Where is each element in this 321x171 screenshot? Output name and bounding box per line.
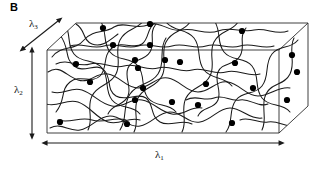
crosslink-node <box>169 99 175 105</box>
lambda1-subscript: 1 <box>160 154 164 162</box>
crosslink-node <box>57 119 63 125</box>
crosslink-node <box>132 97 138 103</box>
polymer-chain <box>58 119 126 121</box>
polymer-chain <box>64 22 140 114</box>
crosslink-node <box>73 61 79 67</box>
polymer-chain <box>262 38 294 130</box>
crosslink-node <box>140 85 146 91</box>
crosslink-node <box>195 102 201 108</box>
crosslink-node <box>135 65 141 71</box>
crosslink-node <box>177 59 183 65</box>
lambda1-label: λ1 <box>155 149 164 160</box>
crosslink-node <box>100 25 106 31</box>
crosslink-node <box>132 57 138 63</box>
crosslink-node <box>239 28 245 34</box>
crosslink-node <box>147 21 153 27</box>
crosslink-node <box>284 97 290 103</box>
crosslink-node <box>124 121 130 127</box>
figure-panel-b: B <box>0 0 321 171</box>
lambda3-label: λ3 <box>29 18 38 29</box>
polymer-chain <box>182 22 238 132</box>
crosslink-node <box>162 57 168 63</box>
polymer-chain <box>166 22 232 86</box>
network-diagram-svg <box>0 0 321 171</box>
lambda3-subscript: 3 <box>34 23 38 31</box>
crosslink-node <box>203 81 209 87</box>
crosslink-node <box>147 42 153 48</box>
crosslink-node <box>289 52 295 58</box>
crosslink-node <box>250 85 256 91</box>
lambda2-subscript: 2 <box>19 89 23 97</box>
polymer-chain-group <box>46 20 298 132</box>
lambda2-label: λ2 <box>14 84 23 95</box>
crosslink-node <box>294 69 300 75</box>
crosslink-node <box>229 120 235 126</box>
box-top-right-slant <box>279 23 308 50</box>
crosslink-node <box>110 42 116 48</box>
box-bottom-right-slant <box>279 106 308 133</box>
crosslink-node <box>87 79 93 85</box>
crosslink-node <box>232 60 238 66</box>
